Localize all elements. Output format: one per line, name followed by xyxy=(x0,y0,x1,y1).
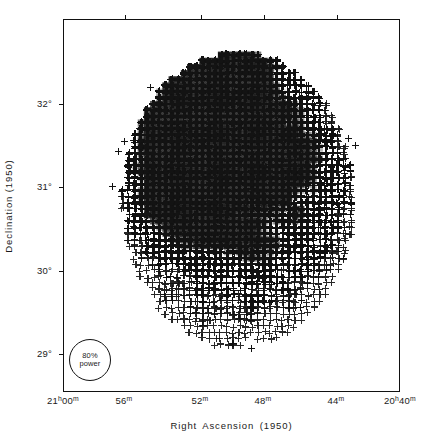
x-tick-label-0: 21h00m xyxy=(47,395,79,406)
x-tick-mark xyxy=(125,15,126,20)
x-tick-mark xyxy=(337,15,338,20)
plot-frame xyxy=(63,19,400,392)
x-tick-label-1: 56m xyxy=(116,395,133,406)
x-tick-mark xyxy=(201,15,202,20)
x-tick-label-2: 52m xyxy=(192,395,209,406)
y-tick-label-0: 32° xyxy=(37,98,52,109)
y-tick-mark xyxy=(59,271,64,272)
intensity-plus-field xyxy=(64,20,399,391)
plot-canvas xyxy=(64,20,399,391)
x-axis-title: Right Ascension (1950) xyxy=(63,420,400,431)
x-tick-mark xyxy=(264,15,265,20)
y-tick-label-3: 29° xyxy=(37,348,52,359)
beam-size-circle: 80% power xyxy=(69,339,111,381)
y-tick-mark xyxy=(59,354,64,355)
y-tick-label-1: 31° xyxy=(37,181,52,192)
x-tick-label-4: 44m xyxy=(328,395,345,406)
y-tick-mark xyxy=(59,187,64,188)
x-tick-label-5: 20h40m xyxy=(384,395,416,406)
beam-power-label: power xyxy=(80,360,101,368)
y-tick-label-2: 30° xyxy=(37,265,52,276)
y-tick-mark xyxy=(59,104,64,105)
radio-map-figure: 21h00m56m52m48m44m20h40m 32°31°30°29° Ri… xyxy=(0,0,441,440)
y-axis-title: Declination (1950) xyxy=(3,159,14,252)
x-tick-label-3: 48m xyxy=(255,395,272,406)
